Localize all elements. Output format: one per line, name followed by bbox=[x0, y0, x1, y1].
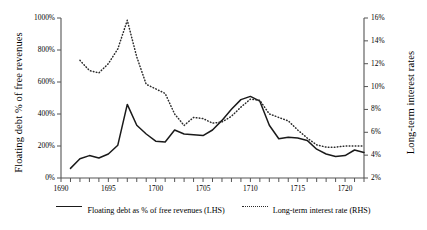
y-left-tick-600%: 600% bbox=[0, 77, 55, 86]
x-tick-1715: 1715 bbox=[276, 184, 320, 193]
y-right-tick-6%: 6% bbox=[371, 127, 411, 136]
legend-swatch-dotted-icon bbox=[242, 206, 268, 215]
series-line-0 bbox=[70, 96, 364, 168]
legend-label: Long-term interest rate (RHS) bbox=[273, 206, 371, 215]
y-left-tick-1000%: 1000% bbox=[0, 13, 55, 22]
legend-label: Floating debt as % of free revenues (LHS… bbox=[87, 206, 224, 215]
y-right-tick-2%: 2% bbox=[371, 173, 411, 182]
y-right-tick-14%: 14% bbox=[371, 36, 411, 45]
legend-entry-1: Long-term interest rate (RHS) bbox=[242, 205, 371, 215]
chart-figure: Floating debt % of free revenues Long-te… bbox=[0, 0, 427, 230]
x-tick-1690: 1690 bbox=[39, 184, 83, 193]
y-left-tick-400%: 400% bbox=[0, 109, 55, 118]
legend-swatch-solid-icon bbox=[56, 206, 82, 215]
x-tick-1705: 1705 bbox=[181, 184, 225, 193]
y-right-tick-12%: 12% bbox=[371, 59, 411, 68]
y-left-tick-800%: 800% bbox=[0, 45, 55, 54]
x-tick-1695: 1695 bbox=[86, 184, 130, 193]
y-right-tick-4%: 4% bbox=[371, 150, 411, 159]
y-right-tick-16%: 16% bbox=[371, 13, 411, 22]
x-axis-ticks bbox=[61, 178, 364, 182]
series-lines bbox=[70, 20, 364, 168]
x-tick-1720: 1720 bbox=[323, 184, 367, 193]
y-left-tick-200%: 200% bbox=[0, 141, 55, 150]
y-right-tick-10%: 10% bbox=[371, 82, 411, 91]
legend-entry-0: Floating debt as % of free revenues (LHS… bbox=[56, 205, 224, 215]
plot-area bbox=[0, 0, 427, 230]
y-left-tick-0%: 0% bbox=[0, 173, 55, 182]
y-axis-right-ticks bbox=[364, 18, 368, 178]
x-tick-1710: 1710 bbox=[228, 184, 272, 193]
chart-legend: Floating debt as % of free revenues (LHS… bbox=[0, 205, 427, 215]
x-tick-1700: 1700 bbox=[134, 184, 178, 193]
y-axis-left-ticks bbox=[57, 18, 61, 178]
y-right-tick-8%: 8% bbox=[371, 104, 411, 113]
series-line-1 bbox=[80, 20, 364, 147]
